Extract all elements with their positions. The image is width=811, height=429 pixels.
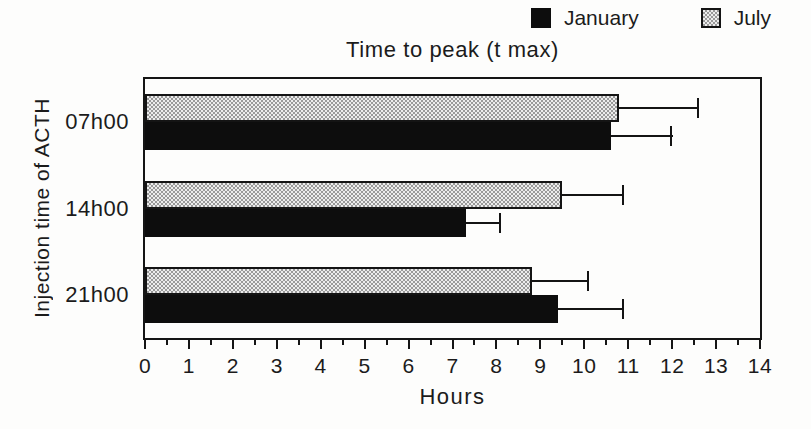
x-tick-label: 5 <box>343 354 387 378</box>
x-minor-tick <box>693 340 695 345</box>
error-bar-cap-january-14h00 <box>499 213 501 233</box>
x-major-tick <box>627 340 629 349</box>
x-major-tick <box>759 340 761 349</box>
x-major-tick <box>583 340 585 349</box>
x-minor-tick <box>737 340 739 345</box>
error-bar-july-21h00 <box>532 280 589 282</box>
x-minor-tick <box>342 340 344 345</box>
x-minor-tick <box>605 340 607 345</box>
x-major-tick <box>276 340 278 349</box>
x-major-tick <box>320 340 322 349</box>
x-axis-label: Hours <box>143 384 762 410</box>
error-bar-cap-july-14h00 <box>622 185 624 205</box>
error-bar-cap-july-21h00 <box>587 271 589 291</box>
error-bar-july-07h00 <box>619 107 698 109</box>
error-bar-july-14h00 <box>562 194 624 196</box>
x-tick-label: 14 <box>738 354 782 378</box>
category-label-14h00: 14h00 <box>65 196 129 222</box>
legend-swatch-january-icon <box>531 8 551 28</box>
x-major-tick <box>188 340 190 349</box>
error-bar-cap-january-07h00 <box>670 126 672 146</box>
x-tick-label: 2 <box>211 354 255 378</box>
x-tick-label: 6 <box>387 354 431 378</box>
figure-time-to-peak-chart: January July Time to peak (t max) Inject… <box>0 0 811 429</box>
x-major-tick <box>364 340 366 349</box>
x-minor-tick <box>254 340 256 345</box>
x-minor-tick <box>430 340 432 345</box>
x-major-tick <box>452 340 454 349</box>
bar-january-07h00 <box>145 122 611 150</box>
x-major-tick <box>715 340 717 349</box>
error-bar-cap-january-21h00 <box>622 299 624 319</box>
x-major-tick <box>495 340 497 349</box>
x-tick-label: 8 <box>474 354 518 378</box>
bar-january-14h00 <box>145 209 466 237</box>
error-bar-january-21h00 <box>558 308 624 310</box>
x-tick-label: 12 <box>650 354 694 378</box>
category-label-21h00: 21h00 <box>65 282 129 308</box>
error-bar-january-07h00 <box>611 135 673 137</box>
x-tick-label: 4 <box>299 354 343 378</box>
x-tick-label: 13 <box>694 354 738 378</box>
legend-label-january: January <box>564 6 639 30</box>
x-major-tick <box>671 340 673 349</box>
x-minor-tick <box>298 340 300 345</box>
category-label-07h00: 07h00 <box>65 109 129 135</box>
x-minor-tick <box>649 340 651 345</box>
x-tick-label: 3 <box>255 354 299 378</box>
chart-title: Time to peak (t max) <box>143 37 762 63</box>
x-tick-label: 1 <box>167 354 211 378</box>
error-bar-january-14h00 <box>466 222 501 224</box>
plot-area <box>143 77 762 340</box>
x-minor-tick <box>517 340 519 345</box>
bar-july-07h00 <box>145 94 619 122</box>
error-bar-cap-july-07h00 <box>697 98 699 118</box>
chart-legend: January July <box>531 6 771 30</box>
x-major-tick <box>539 340 541 349</box>
x-axis: 01234567891011121314 <box>143 340 762 390</box>
x-tick-label: 7 <box>431 354 475 378</box>
bar-january-21h00 <box>145 295 558 323</box>
x-tick-label: 9 <box>518 354 562 378</box>
legend-label-july: July <box>734 6 771 30</box>
x-tick-label: 11 <box>606 354 650 378</box>
legend-swatch-july-icon <box>701 8 721 28</box>
bar-july-21h00 <box>145 267 532 295</box>
x-tick-label: 0 <box>123 354 167 378</box>
x-tick-label: 10 <box>562 354 606 378</box>
x-minor-tick <box>386 340 388 345</box>
x-major-tick <box>232 340 234 349</box>
x-minor-tick <box>561 340 563 345</box>
x-major-tick <box>144 340 146 349</box>
x-minor-tick <box>473 340 475 345</box>
x-minor-tick <box>210 340 212 345</box>
bar-july-14h00 <box>145 181 562 209</box>
y-category-labels: 07h0014h0021h00 <box>0 0 133 429</box>
x-minor-tick <box>166 340 168 345</box>
x-major-tick <box>408 340 410 349</box>
